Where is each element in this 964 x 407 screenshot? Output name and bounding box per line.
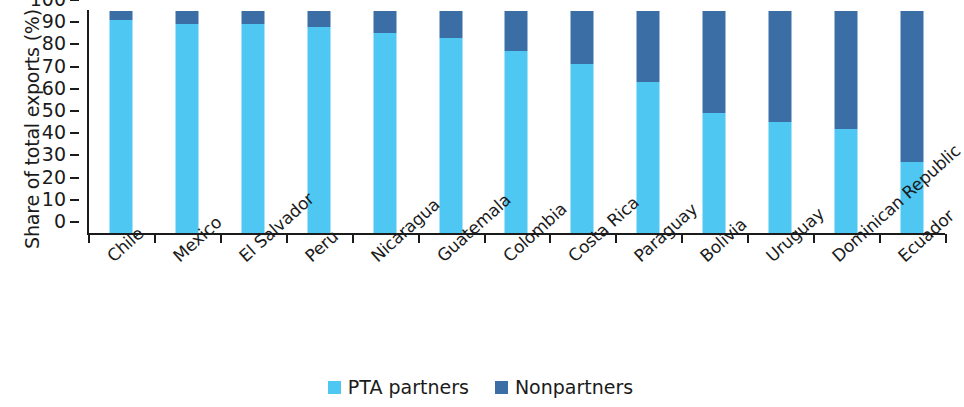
x-axis-label-ecuador: Ecuador	[894, 205, 958, 265]
x-axis-label-paraguay: Paraguay	[630, 199, 701, 266]
x-axis-label-uruguay: Uruguay	[762, 204, 828, 266]
legend-swatch-nonpartners	[495, 381, 508, 394]
x-axis-label-costa-rica: Costa Rica	[564, 192, 643, 266]
x-axis-label-dominican-republic: Dominican Republic	[828, 140, 964, 265]
legend-item[interactable]: Nonpartners	[495, 378, 633, 397]
legend-label: Nonpartners	[515, 378, 633, 397]
legend-swatch-pta-partners	[328, 381, 341, 394]
x-axis-label-peru: Peru	[301, 226, 342, 266]
x-axis-label-nicaragua: Nicaragua	[367, 194, 443, 266]
legend-item[interactable]: PTA partners	[328, 378, 469, 397]
x-axis-label-mexico: Mexico	[169, 212, 226, 266]
chart-legend: PTA partnersNonpartners	[0, 378, 961, 397]
legend-label: PTA partners	[348, 378, 469, 397]
x-axis-label-bolivia: Bolivia	[696, 214, 750, 266]
x-axis-label-chile: Chile	[103, 223, 147, 266]
